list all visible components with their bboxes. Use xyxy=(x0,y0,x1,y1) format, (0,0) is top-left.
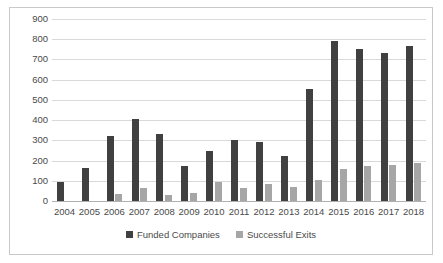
bar-group xyxy=(401,19,426,201)
bar-funded-companies[interactable] xyxy=(281,156,288,202)
x-axis-tick-label: 2012 xyxy=(252,204,277,220)
x-axis-tick-label: 2007 xyxy=(127,204,152,220)
legend-item[interactable]: Funded Companies xyxy=(126,230,220,240)
bar-funded-companies[interactable] xyxy=(256,142,263,201)
x-axis-tick-label: 2008 xyxy=(152,204,177,220)
y-axis-tick-label: 700 xyxy=(14,55,48,65)
bar-funded-companies[interactable] xyxy=(231,140,238,201)
y-axis-tick-label: 100 xyxy=(14,176,48,186)
bar-group xyxy=(127,19,152,201)
bar-funded-companies[interactable] xyxy=(181,166,188,201)
bar-group xyxy=(276,19,301,201)
y-axis-tick-label: 400 xyxy=(14,115,48,125)
x-axis-tick-label: 2009 xyxy=(177,204,202,220)
y-axis-tick-label: 500 xyxy=(14,95,48,105)
y-axis-tick-label: 800 xyxy=(14,34,48,44)
bar-group xyxy=(252,19,277,201)
y-axis-tick-label: 600 xyxy=(14,75,48,85)
bar-successful-exits[interactable] xyxy=(290,187,297,201)
bar-successful-exits[interactable] xyxy=(265,184,272,201)
x-axis-tick-label: 2005 xyxy=(77,204,102,220)
axis-baseline xyxy=(52,201,426,202)
bar-funded-companies[interactable] xyxy=(356,49,363,201)
bar-funded-companies[interactable] xyxy=(82,168,89,201)
bar-group xyxy=(102,19,127,201)
bar-successful-exits[interactable] xyxy=(165,195,172,201)
bar-group xyxy=(351,19,376,201)
legend-swatch-icon xyxy=(236,231,243,238)
bar-group xyxy=(202,19,227,201)
chart-plot-wrapper: 0100200300400500600700800900 20042005200… xyxy=(10,8,432,254)
bar-group xyxy=(227,19,252,201)
x-axis-tick-label: 2006 xyxy=(102,204,127,220)
y-axis-tick-label: 900 xyxy=(14,14,48,24)
bar-successful-exits[interactable] xyxy=(190,193,197,201)
x-axis: 2004200520062007200820092010201120122013… xyxy=(52,204,426,220)
bar-funded-companies[interactable] xyxy=(57,182,64,201)
bar-funded-companies[interactable] xyxy=(206,151,213,201)
y-axis-tick-label: 0 xyxy=(14,196,48,206)
legend-label: Funded Companies xyxy=(137,230,220,240)
chart-screenshot: 0100200300400500600700800900 20042005200… xyxy=(0,0,443,263)
bar-group xyxy=(301,19,326,201)
bar-group xyxy=(77,19,102,201)
bar-funded-companies[interactable] xyxy=(306,89,313,201)
chart-frame: 0100200300400500600700800900 20042005200… xyxy=(9,7,433,255)
x-axis-tick-label: 2004 xyxy=(52,204,77,220)
plot-area xyxy=(52,19,426,201)
x-axis-tick-label: 2011 xyxy=(227,204,252,220)
bar-successful-exits[interactable] xyxy=(414,163,421,201)
bar-funded-companies[interactable] xyxy=(107,136,114,201)
bar-successful-exits[interactable] xyxy=(215,182,222,201)
x-axis-tick-label: 2017 xyxy=(376,204,401,220)
x-axis-tick-label: 2010 xyxy=(202,204,227,220)
x-axis-tick-label: 2016 xyxy=(351,204,376,220)
legend-item[interactable]: Successful Exits xyxy=(236,230,316,240)
legend-swatch-icon xyxy=(126,231,133,238)
y-axis-tick-label: 200 xyxy=(14,156,48,166)
bar-funded-companies[interactable] xyxy=(156,134,163,201)
bar-group xyxy=(177,19,202,201)
x-axis-tick-label: 2014 xyxy=(301,204,326,220)
bar-funded-companies[interactable] xyxy=(132,119,139,201)
bar-successful-exits[interactable] xyxy=(389,165,396,201)
bar-successful-exits[interactable] xyxy=(240,188,247,201)
bar-group xyxy=(152,19,177,201)
bar-successful-exits[interactable] xyxy=(340,169,347,201)
bar-group xyxy=(52,19,77,201)
legend-label: Successful Exits xyxy=(247,230,316,240)
bar-funded-companies[interactable] xyxy=(331,41,338,201)
bar-successful-exits[interactable] xyxy=(315,180,322,201)
y-axis-tick-label: 300 xyxy=(14,136,48,146)
chart-legend: Funded CompaniesSuccessful Exits xyxy=(10,230,432,240)
bar-group xyxy=(376,19,401,201)
x-axis-tick-label: 2015 xyxy=(326,204,351,220)
bar-groups xyxy=(52,19,426,201)
bar-successful-exits[interactable] xyxy=(140,188,147,201)
x-axis-tick-label: 2013 xyxy=(276,204,301,220)
bar-funded-companies[interactable] xyxy=(381,53,388,201)
bar-group xyxy=(326,19,351,201)
bar-funded-companies[interactable] xyxy=(406,46,413,201)
y-axis: 0100200300400500600700800900 xyxy=(14,19,48,201)
bar-successful-exits[interactable] xyxy=(115,194,122,201)
x-axis-tick-label: 2018 xyxy=(401,204,426,220)
bar-successful-exits[interactable] xyxy=(364,166,371,201)
